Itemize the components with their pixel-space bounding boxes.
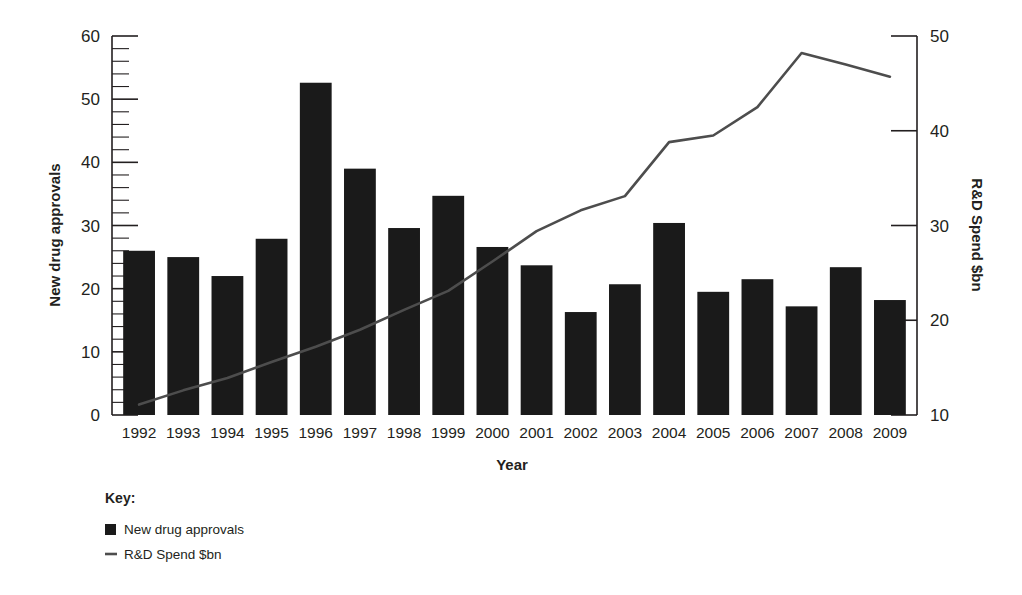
chart-container: 0102030405060 1020304050 199219931994199… <box>0 0 1022 595</box>
legend-item-label-approvals: New drug approvals <box>124 522 244 537</box>
x-axis-tick-label: 2007 <box>784 424 818 441</box>
x-axis-tick-label: 1994 <box>210 424 245 441</box>
bar <box>123 251 155 415</box>
left-axis-tick-label: 60 <box>81 27 100 46</box>
bar <box>388 228 420 415</box>
bar-series-new-drug-approvals <box>123 83 906 415</box>
legend: Key: New drug approvals R&D Spend $bn <box>105 490 244 562</box>
x-axis-tick-label: 2004 <box>652 424 687 441</box>
right-axis-tick-label: 40 <box>930 122 949 141</box>
right-axis-tick-label: 20 <box>930 311 949 330</box>
rd-spend-polyline <box>139 53 890 405</box>
bar <box>609 284 641 415</box>
left-axis-tick-label: 50 <box>81 90 100 109</box>
x-axis-tick-label: 2005 <box>696 424 730 441</box>
left-axis-tick-label: 30 <box>81 217 100 236</box>
left-axis-tick-label: 0 <box>91 406 100 425</box>
x-axis-title: Year <box>496 456 528 473</box>
bar <box>521 265 553 415</box>
x-axis-tick-label: 1992 <box>122 424 156 441</box>
left-axis-tick-label: 20 <box>81 280 100 299</box>
bar <box>256 239 288 415</box>
x-axis-tick-label: 2001 <box>519 424 553 441</box>
legend-heading: Key: <box>105 490 135 506</box>
x-axis-tick-label: 1999 <box>431 424 465 441</box>
x-axis-year-labels: 1992199319941995199619971998199920002001… <box>122 424 907 441</box>
left-axis-tick-label: 10 <box>81 343 100 362</box>
x-axis-tick-label: 1997 <box>343 424 377 441</box>
bar <box>300 83 332 415</box>
left-axis-title: New drug approvals <box>46 163 63 306</box>
right-axis-tick-label: 30 <box>930 217 949 236</box>
bar <box>742 279 774 415</box>
x-axis-tick-label: 1993 <box>166 424 200 441</box>
bar <box>477 247 509 415</box>
x-axis-tick-label: 2000 <box>475 424 510 441</box>
right-axis-tick-label: 50 <box>930 27 949 46</box>
drug-approvals-rd-spend-chart: 0102030405060 1020304050 199219931994199… <box>0 0 1022 595</box>
x-axis-tick-label: 1995 <box>254 424 288 441</box>
x-axis-tick-label: 2002 <box>564 424 598 441</box>
bar <box>874 300 906 415</box>
x-axis-tick-label: 1996 <box>299 424 333 441</box>
bar <box>786 306 818 415</box>
bar <box>344 169 376 415</box>
left-axis-tick-label: 40 <box>81 153 100 172</box>
bar <box>653 223 685 415</box>
bar <box>830 267 862 415</box>
bar <box>212 276 244 415</box>
legend-item-label-spend: R&D Spend $bn <box>124 547 222 562</box>
bar <box>565 312 597 415</box>
x-axis-tick-label: 2008 <box>829 424 863 441</box>
line-series-rd-spend <box>139 53 890 405</box>
x-axis-tick-label: 2009 <box>873 424 907 441</box>
right-axis-title: R&D Spend $bn <box>969 178 986 291</box>
square-swatch-icon <box>105 524 116 535</box>
x-axis-tick-label: 2006 <box>740 424 774 441</box>
x-axis-tick-label: 2003 <box>608 424 642 441</box>
bar <box>432 196 464 415</box>
right-axis-tick-label: 10 <box>930 406 949 425</box>
bar <box>697 292 729 415</box>
x-axis-tick-label: 1998 <box>387 424 421 441</box>
